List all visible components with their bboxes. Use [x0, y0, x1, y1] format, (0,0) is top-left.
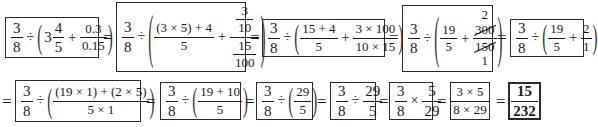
cancelled-numerator: 300 [473, 23, 497, 37]
left-paren: ( [294, 22, 299, 55]
equals-sign: = [146, 93, 156, 110]
divide-sign: ÷ [532, 30, 540, 46]
fraction-2-1: 21 [581, 22, 592, 54]
numerator: 3 [262, 83, 274, 100]
numerator: (19 × 1) + (2 × 5) [53, 85, 148, 99]
denominator: 5 [297, 103, 308, 117]
numerator: 15 + 4 [300, 22, 337, 36]
numerator: 19 [440, 23, 457, 37]
numerator: 19 [548, 22, 565, 36]
fraction-3-8: 38 [21, 83, 33, 119]
fraction-3-8: 38 [268, 20, 280, 56]
denominator: 8 [11, 39, 23, 56]
fraction-cancelled: 2 300 150 1 [473, 8, 497, 68]
equals-sign: = [497, 29, 507, 46]
divide-sign: ÷ [27, 30, 35, 46]
numerator: 3 [21, 83, 33, 100]
equals-sign: = [379, 93, 389, 110]
numerator: 15 [515, 83, 534, 100]
equals-sign: = [437, 93, 447, 110]
denominator: 8 [408, 40, 420, 57]
equals-sign: = [317, 93, 327, 110]
divide-sign: ÷ [37, 93, 45, 109]
denominator: 5 [53, 39, 65, 56]
numerator: 3 [516, 20, 528, 37]
numerator: 29 [294, 85, 311, 99]
equals-sign: = [389, 29, 399, 46]
step-3-expression: 38 ÷ ( 15 + 45 + 3 × 10010 × 15 ) [262, 19, 385, 57]
fraction-29-5: 295 [294, 85, 311, 117]
denominator: 8 [268, 40, 280, 57]
fraction-3-8: 38 [516, 20, 528, 56]
step-7-expression: 38 ÷ ( 19 + 105 ) [160, 82, 241, 120]
divide-sign: ÷ [352, 93, 360, 109]
divide-sign: ÷ [182, 93, 190, 109]
step-9-expression: 38 ÷ 295 [330, 82, 376, 120]
left-paren: ( [148, 7, 153, 67]
numerator: 5 [426, 83, 438, 100]
left-paren: ( [288, 85, 293, 118]
divide-sign: ÷ [284, 30, 292, 46]
numerator: 3 [336, 83, 348, 100]
step-8-expression: 38 ÷ ( 295 ) [256, 82, 313, 120]
step-11-expression: 3 × 58 × 29 [450, 82, 490, 120]
fraction-19-5: 15 + 45 [300, 22, 337, 54]
step-2-expression: 38 ÷ ( (3 × 5) + 45 + 310 15100 ) [116, 2, 246, 72]
left-paren: ( [47, 84, 52, 119]
numerator: 3 × 5 [455, 85, 486, 99]
plus-sign: + [218, 29, 226, 45]
cancel-result-bottom: 1 [482, 54, 489, 68]
denominator: 5 [179, 39, 190, 53]
fraction-common-denominator: (19 × 1) + (2 × 5)5 × 1 [53, 85, 148, 117]
fraction-3-8: 38 [11, 20, 23, 56]
denominator: 5 [551, 40, 562, 54]
multiply-sign: × [411, 93, 419, 109]
fraction-3-8: 38 [408, 21, 420, 57]
step-5-expression: 38 ÷ ( 195 + 21 ) [510, 19, 584, 57]
equals-sign: = [103, 29, 113, 46]
divide-sign: ÷ [278, 93, 286, 109]
denominator: 8 [516, 40, 528, 57]
cancelled-denominator: 150 [473, 40, 497, 54]
equals-sign: = [250, 29, 260, 46]
fraction-29-5-expanded: 19 + 105 [198, 85, 242, 117]
numerator: 2 [581, 22, 592, 36]
plus-sign: + [461, 31, 469, 47]
denominator: 232 [511, 103, 538, 120]
fraction-19-5: 195 [440, 23, 457, 55]
denominator: 5 [367, 103, 379, 120]
numerator: 0.3 [83, 22, 103, 36]
plus-sign: + [569, 30, 577, 46]
fraction-3-8: 38 [395, 83, 407, 119]
equals-sign: = [2, 93, 12, 110]
denominator: 100 [233, 56, 257, 70]
left-paren: ( [37, 20, 42, 55]
divide-sign: ÷ [138, 29, 146, 45]
whole-number: 3 [44, 29, 52, 46]
left-paren: ( [434, 10, 439, 67]
denominator: 1 [581, 40, 592, 54]
numerator: 3 [166, 83, 178, 100]
denominator: 8 [122, 39, 134, 56]
fraction-3-8: 38 [166, 83, 178, 119]
denominator: 8 [395, 103, 407, 120]
numerator: 3 [395, 83, 407, 100]
step-4-expression: 38 ÷ ( 195 + 2 300 150 1 ) [402, 5, 493, 72]
step-10-expression: 38 × 529 [389, 82, 433, 120]
numerator: 3 [122, 19, 134, 36]
fraction-mixed-to-improper: (3 × 5) + 45 [154, 21, 214, 53]
numerator: 3 [239, 4, 250, 18]
numerator: (3 × 5) + 4 [154, 21, 214, 35]
equals-sign: = [245, 93, 255, 110]
left-paren: ( [542, 22, 547, 55]
fraction-product: 3 × 58 × 29 [451, 85, 488, 117]
divide-sign: ÷ [424, 31, 432, 47]
step-6-expression: 38 ÷ ( (19 × 1) + (2 × 5)5 × 1 ) [15, 80, 141, 122]
denominator: 5 [314, 40, 325, 54]
plus-sign: + [68, 30, 76, 46]
left-paren: ( [192, 85, 197, 118]
numerator: 4 [53, 20, 65, 37]
cancel-result-top: 2 [482, 8, 489, 22]
denominator: 5 × 1 [85, 103, 116, 117]
final-answer: 15232 [508, 82, 541, 120]
